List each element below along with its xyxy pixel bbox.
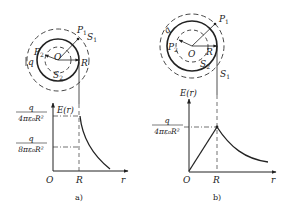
y-tick-lower-den-a: 8πε₀R² xyxy=(18,145,43,154)
x-tick-r-a: R xyxy=(75,175,83,185)
label-p1: P1 xyxy=(76,25,87,36)
graph-b: E(r) q 4πε₀R² O R r b) xyxy=(152,88,276,202)
sphere-diagram-a: P1 S1 P2 O R q S2 xyxy=(26,25,97,104)
caption-a: a) xyxy=(75,193,83,202)
label-charge-q: q xyxy=(28,57,34,67)
field-curve-a xyxy=(80,116,110,169)
label-radius-r: R xyxy=(80,58,88,68)
y-tick-upper-den-a: 4πε₀R² xyxy=(17,114,43,123)
y-tick-upper-num-a: q xyxy=(28,103,33,112)
origin-label-a: O xyxy=(46,175,54,185)
y-tick-num-b: q xyxy=(164,116,169,125)
y-axis-label-a: E(r) xyxy=(56,105,74,115)
panel-a: P1 S1 P2 O R q S2 E(r) q 4πε₀R² q xyxy=(16,25,128,202)
x-tick-r-b: R xyxy=(212,175,220,185)
label-s1-b: S1 xyxy=(220,69,230,80)
label-p1-b: P1 xyxy=(218,14,229,25)
point-p1-b xyxy=(214,23,217,26)
sphere-diagram-b: P1 S1 P2 O R q S2 xyxy=(160,14,230,95)
gauss-law-figure: P1 S1 P2 O R q S2 E(r) q 4πε₀R² q xyxy=(0,0,293,214)
label-center-o: O xyxy=(54,52,62,62)
y-axis-label-b: E(r) xyxy=(179,88,197,98)
label-radius-r-b: R xyxy=(205,47,213,57)
radius-line-p1-b xyxy=(192,23,216,46)
field-decay-curve-b xyxy=(217,127,268,162)
label-p2: P2 xyxy=(33,47,44,58)
label-s2-b: S2 xyxy=(200,59,210,70)
point-p1 xyxy=(77,38,80,41)
x-axis-label-a: r xyxy=(121,175,126,185)
x-axis-label-b: r xyxy=(271,175,276,185)
origin-label-b: O xyxy=(183,175,191,185)
field-linear-rise-b xyxy=(189,127,217,171)
y-tick-den-b: 4πε₀R² xyxy=(153,127,179,136)
caption-b: b) xyxy=(213,193,221,202)
graph-a: E(r) q 4πε₀R² q 8πε₀R² O R r a) xyxy=(16,103,128,202)
label-s2: S2 xyxy=(53,70,63,81)
label-center-o-b: O xyxy=(188,49,196,59)
radius-line-p2-b xyxy=(179,40,192,46)
label-s1: S1 xyxy=(87,32,97,43)
panel-b: P1 S1 P2 O R q S2 E(r) q 4πε₀R² O R r b) xyxy=(152,14,276,202)
y-tick-lower-num-a: q xyxy=(28,134,33,143)
